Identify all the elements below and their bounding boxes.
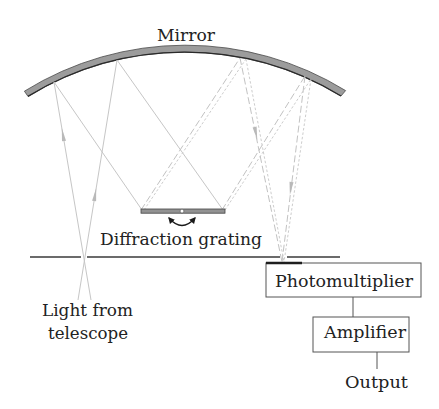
collimated-ray-2 <box>117 60 223 210</box>
focused-ray-d-long <box>282 76 305 262</box>
focused-ray-d-arrow-icon <box>290 182 294 195</box>
diffraction-grating <box>141 209 225 226</box>
diffracted-ray-a-long <box>141 58 240 210</box>
spectrometer-diagram: Mirror Diffraction grating Light from te… <box>0 0 439 409</box>
mirror-label: Mirror <box>157 25 216 45</box>
grating-label: Diffraction grating <box>100 229 262 249</box>
focused-ray-d-short <box>284 79 311 262</box>
amplifier-block: Amplifier <box>313 317 409 352</box>
incoming-ray-1-arrow-icon <box>62 128 66 141</box>
rotation-arrow-icon <box>169 218 195 226</box>
diffracted-ray-b-short <box>225 79 311 210</box>
amplifier-label: Amplifier <box>323 322 407 342</box>
incoming-ray-2 <box>78 60 117 300</box>
output-label: Output <box>345 372 408 392</box>
diffracted-ray-b-long <box>222 76 305 210</box>
photomultiplier-label: Photomultiplier <box>275 271 414 291</box>
grating-pivot-icon <box>180 209 184 213</box>
incoming-ray-1 <box>54 82 91 300</box>
light-source-label-line1: Light from <box>42 300 133 320</box>
incoming-ray-2-arrow-icon <box>92 188 96 201</box>
photomultiplier-block: Photomultiplier <box>266 263 421 297</box>
diffracted-ray-a-short <box>144 59 246 210</box>
mirror-reflective-surface <box>28 52 341 96</box>
collimated-ray-1 <box>54 82 142 210</box>
focused-ray-c-arrow-icon <box>253 127 258 140</box>
light-source-label-line2: telescope <box>48 323 128 343</box>
